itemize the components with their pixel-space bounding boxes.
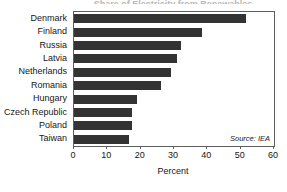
bar-row xyxy=(74,92,274,105)
x-axis-tick-labels: 0102030405060 xyxy=(73,150,273,162)
x-axis-tick-label: 50 xyxy=(235,150,245,161)
y-axis-label: Russia xyxy=(0,38,70,51)
x-axis-tick-label: 60 xyxy=(268,150,278,161)
bar-finland xyxy=(74,28,202,37)
chart-figure: Share of Electricity from Renewables Den… xyxy=(0,0,287,192)
bar-russia xyxy=(74,41,181,50)
y-axis-label: Finland xyxy=(0,24,70,37)
bar-row xyxy=(74,106,274,119)
source-annotation: Source: IEA xyxy=(230,134,270,143)
x-axis-title: Percent xyxy=(73,166,273,177)
y-axis-label: Netherlands xyxy=(0,65,70,78)
x-axis-tick-label: 20 xyxy=(135,150,145,161)
x-axis-tick-label: 10 xyxy=(101,150,111,161)
bar-row xyxy=(74,52,274,65)
bar-row xyxy=(74,39,274,52)
bar-series xyxy=(74,12,274,146)
bar-hungary xyxy=(74,95,137,104)
y-axis-label: Czech Republic xyxy=(0,105,70,118)
bar-row xyxy=(74,66,274,79)
bar-poland xyxy=(74,121,132,130)
x-axis-tickmark xyxy=(140,146,141,149)
x-axis-tickmark xyxy=(273,146,274,149)
bar-row xyxy=(74,79,274,92)
y-axis-label: Hungary xyxy=(0,91,70,104)
x-axis-tickmark xyxy=(106,146,107,149)
bar-row xyxy=(74,119,274,132)
y-axis-label: Taiwan xyxy=(0,132,70,145)
y-axis-label: Latvia xyxy=(0,51,70,64)
chart-title-clipped: Share of Electricity from Renewables xyxy=(72,0,274,4)
bar-latvia xyxy=(74,54,177,63)
y-axis-label: Romania xyxy=(0,78,70,91)
x-axis-tickmark xyxy=(240,146,241,149)
x-axis-tickmark xyxy=(206,146,207,149)
x-axis-tick-label: 0 xyxy=(70,150,75,161)
bar-row xyxy=(74,25,274,38)
bar-taiwan xyxy=(74,135,129,144)
x-axis-tickmark xyxy=(73,146,74,149)
y-axis-label: Poland xyxy=(0,118,70,131)
bar-czech-republic xyxy=(74,108,132,117)
bar-row xyxy=(74,12,274,25)
x-axis-tickmark xyxy=(173,146,174,149)
y-axis-category-labels: Denmark Finland Russia Latvia Netherland… xyxy=(0,11,70,145)
plot-area: Source: IEA xyxy=(73,11,275,147)
x-axis-tick-label: 30 xyxy=(168,150,178,161)
bar-romania xyxy=(74,81,161,90)
bar-denmark xyxy=(74,14,246,23)
y-axis-label: Denmark xyxy=(0,11,70,24)
x-axis-tick-label: 40 xyxy=(201,150,211,161)
bar-netherlands xyxy=(74,68,171,77)
